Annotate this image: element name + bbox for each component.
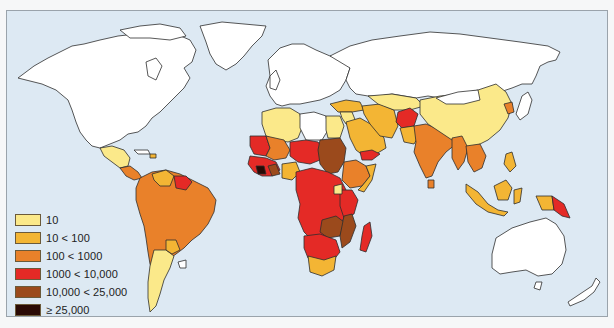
legend-swatch <box>15 286 41 298</box>
region-greenland[interactable] <box>200 22 266 70</box>
region-new-zealand[interactable] <box>568 278 600 306</box>
legend-swatch <box>15 268 41 280</box>
region-north-america[interactable] <box>18 30 196 148</box>
legend-item: 100 < 1000 <box>15 247 127 265</box>
legend-swatch <box>15 304 41 316</box>
region-uganda[interactable] <box>334 184 342 194</box>
region-tanzania[interactable] <box>340 190 358 218</box>
region-afghanistan[interactable] <box>396 108 418 128</box>
region-turkey[interactable] <box>330 100 364 112</box>
legend-item: 10 < 100 <box>15 229 127 247</box>
legend-label: ≥ 25,000 <box>46 304 90 316</box>
legend-swatch <box>15 250 41 262</box>
legend-swatch <box>15 214 41 226</box>
region-egypt[interactable] <box>326 116 344 138</box>
region-indochina[interactable] <box>466 144 486 172</box>
region-madagascar[interactable] <box>360 222 372 252</box>
legend-label: 10,000 < 25,000 <box>46 286 127 298</box>
region-papua-new-guinea[interactable] <box>552 196 570 218</box>
region-borneo[interactable] <box>494 180 512 200</box>
region-sulawesi[interactable] <box>514 188 522 204</box>
region-sudan[interactable] <box>318 138 346 174</box>
legend-item: 1000 < 10,000 <box>15 265 127 283</box>
legend-swatch <box>15 232 41 244</box>
legend-label: 10 <box>46 214 58 226</box>
region-russia[interactable] <box>330 32 560 98</box>
region-australia[interactable] <box>492 218 566 276</box>
legend-item: 10 <box>15 211 127 229</box>
region-libya[interactable] <box>300 112 328 140</box>
legend-label: 10 < 100 <box>46 232 90 244</box>
region-mexico[interactable] <box>100 146 130 168</box>
region-argentina-chile[interactable] <box>148 250 174 312</box>
region-philippines[interactable] <box>504 152 516 172</box>
legend-item: 10,000 < 25,000 <box>15 283 127 301</box>
legend-label: 100 < 1000 <box>46 250 102 262</box>
region-sierra-leone[interactable] <box>256 166 266 174</box>
region-west-papua[interactable] <box>536 196 554 210</box>
legend-item: ≥ 25,000 <box>15 301 127 317</box>
legend-label: 1000 < 10,000 <box>46 268 118 280</box>
map-frame: 10 10 < 100 100 < 1000 1000 < 10,000 10,… <box>6 10 608 317</box>
region-central-america[interactable] <box>120 166 142 180</box>
map-legend: 10 10 < 100 100 < 1000 1000 < 10,000 10,… <box>15 211 127 317</box>
